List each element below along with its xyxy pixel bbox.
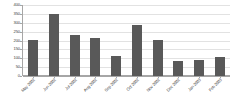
x-axis-tick-label-text: Dec 2002 (166, 78, 181, 93)
bar (132, 25, 142, 76)
y-axis-tick-mark (20, 32, 22, 33)
bar (90, 38, 100, 76)
y-axis-tick-mark (20, 58, 22, 59)
bar (28, 40, 38, 76)
x-axis-tick-label-text: Aug 2002 (84, 78, 99, 93)
x-axis-tick-label-text: Jan 2003 (188, 78, 202, 92)
y-axis-tick-mark (20, 76, 22, 77)
bar (49, 14, 59, 76)
bars-series (23, 5, 230, 76)
x-axis-tick-label-text: Jun 2002 (43, 78, 57, 92)
y-axis-tick-mark (20, 41, 22, 42)
y-axis-tick-mark (20, 49, 22, 50)
x-axis-tick-label-text: Oct 2002 (126, 78, 140, 92)
bar-chart: 050100150200250300350400 May 2002Jun 200… (0, 0, 235, 101)
y-axis-tick-mark (20, 67, 22, 68)
x-axis-tick-label-text: Sep 2002 (104, 78, 119, 93)
y-axis-tick-mark (20, 5, 22, 6)
y-axis-tick-mark (20, 14, 22, 15)
y-axis-tick-mark (20, 23, 22, 24)
x-axis-tick-label-text: Feb 2003 (208, 78, 223, 93)
bar (153, 40, 163, 76)
y-axis: 050100150200250300350400 (0, 0, 22, 81)
x-axis: May 2002Jun 2002Jul 2002Aug 2002Sep 2002… (23, 77, 230, 101)
x-axis-tick-label-text: Nov 2002 (146, 78, 161, 93)
x-axis-tick-label-text: Jul 2002 (64, 78, 77, 91)
x-axis-tick-label-text: May 2002 (21, 78, 36, 93)
bar (70, 35, 80, 76)
